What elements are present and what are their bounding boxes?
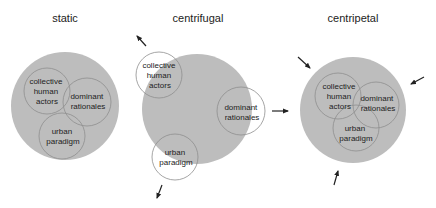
arrow-inward-bottom-icon <box>334 171 338 185</box>
panel-title: centrifugal <box>173 12 224 24</box>
panel-static: static collective human actors dominant … <box>11 12 119 160</box>
panel-centripetal: centripetal collective human actors domi… <box>298 12 424 185</box>
panel-title: centripetal <box>328 12 379 24</box>
dominant-rationales-label: dominant rationales <box>70 92 105 111</box>
diagram-canvas: static collective human actors dominant … <box>0 0 436 208</box>
panel-centrifugal: centrifugal collective human actors domi… <box>136 12 288 198</box>
arrow-outward-down-icon <box>157 185 162 198</box>
arrow-inward-right-icon <box>411 77 424 84</box>
arrow-outward-up-left-icon <box>137 36 146 46</box>
dominant-rationales-label: dominant rationales <box>224 103 259 122</box>
panel-title: static <box>52 12 78 24</box>
dominant-rationales-label: dominant rationales <box>360 94 395 113</box>
arrow-inward-top-left-icon <box>298 57 310 68</box>
